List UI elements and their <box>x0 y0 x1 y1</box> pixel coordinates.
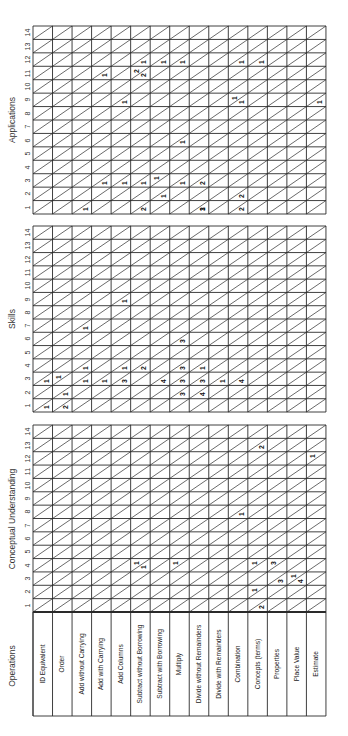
cell-number-tick: 1 <box>23 200 32 214</box>
tally-mark: 1 <box>250 559 258 568</box>
cell-number-tick: 8 <box>23 305 32 319</box>
section-title-skills: Skills <box>6 239 18 399</box>
tally-mark: 1 <box>120 178 128 187</box>
operation-label: Add Columns <box>116 614 126 714</box>
tally-mark: 1 <box>81 323 89 332</box>
tally-mark: 3 <box>199 205 207 214</box>
cell-number-tick: 6 <box>23 332 32 346</box>
tally-mark: 2 <box>257 603 265 612</box>
tally-mark: 3 <box>270 559 278 568</box>
tally-mark: 4 <box>238 376 246 385</box>
tally-mark: 1 <box>172 559 180 568</box>
tally-mark: 3 <box>179 390 187 399</box>
cell-number-tick: 4 <box>23 558 32 572</box>
cell-number-tick: 5 <box>23 147 32 161</box>
operations-header: Operations <box>6 626 18 706</box>
tally-mark: 2 <box>140 71 148 80</box>
tally-mark: 1 <box>218 376 226 385</box>
cell-number-tick: 6 <box>23 133 32 147</box>
tally-mark: 1 <box>159 57 167 66</box>
cell-number-tick: 12 <box>23 53 32 67</box>
cell-number-tick: 14 <box>23 226 32 240</box>
tally-mark: 3 <box>120 376 128 385</box>
operation-label: Multiply <box>174 614 184 714</box>
cell-number-tick: 8 <box>23 106 32 120</box>
operation-label: Estimate <box>311 614 321 714</box>
cell-number-tick: 5 <box>23 345 32 359</box>
tally-mark: 1 <box>152 174 160 183</box>
section-title-applications: Applications <box>6 40 18 200</box>
cell-number-tick: 13 <box>23 438 32 452</box>
section-title-conceptual: Conceptual Understanding <box>6 439 18 599</box>
tally-mark: 1 <box>81 205 89 214</box>
operation-label: Place Value <box>292 614 302 714</box>
cell-number-tick: 10 <box>23 79 32 93</box>
tally-mark: 4 <box>296 576 304 585</box>
tally-mark: 1 <box>179 138 187 147</box>
tally-mark: 1 <box>62 390 70 399</box>
cell-number-tick: 6 <box>23 532 32 546</box>
cell-number-tick: 7 <box>23 319 32 333</box>
cell-number-tick: 9 <box>23 292 32 306</box>
tally-mark: 1 <box>101 376 109 385</box>
cell-number-tick: 4 <box>23 160 32 174</box>
operation-label: Subtract without Borrowing <box>135 614 145 714</box>
cell-number-tick: 12 <box>23 252 32 266</box>
operation-label: Subtract with Borrowing <box>155 614 165 714</box>
cell-number-tick: 3 <box>23 572 32 586</box>
cell-number-tick: 3 <box>23 372 32 386</box>
cell-number-tick: 13 <box>23 39 32 53</box>
tally-mark: 1 <box>238 98 246 107</box>
tally-mark: 2 <box>140 363 148 372</box>
tally-mark: 1 <box>238 509 246 518</box>
operation-label: Divide without Remainders <box>194 614 204 714</box>
cell-number-tick: 1 <box>23 398 32 412</box>
operation-label: Order <box>57 614 67 714</box>
tally-mark: 2 <box>199 178 207 187</box>
cell-number-tick: 12 <box>23 451 32 465</box>
tally-mark: 1 <box>179 178 187 187</box>
tally-mark: 3 <box>179 337 187 346</box>
tally-mark: 1 <box>140 178 148 187</box>
cell-number-tick: 10 <box>23 279 32 293</box>
operation-label: Properties <box>272 614 282 714</box>
tally-mark: 1 <box>42 403 50 412</box>
tally-mark: 1 <box>257 57 265 66</box>
tally-mark: 1 <box>140 57 148 66</box>
cell-number-tick: 11 <box>23 266 32 280</box>
tally-mark: 1 <box>199 363 207 372</box>
tally-mark: 1 <box>250 585 258 594</box>
operation-label: Add without Carrying <box>77 614 87 714</box>
tally-mark: 1 <box>101 71 109 80</box>
tally-mark: 4 <box>199 390 207 399</box>
tally-mark: 3 <box>199 376 207 385</box>
operation-label: ID Equivalent <box>38 614 48 714</box>
tally-mark: 1 <box>55 372 63 381</box>
tally-mark: 1 <box>81 363 89 372</box>
tally-mark: 1 <box>101 178 109 187</box>
cell-number-tick: 2 <box>23 385 32 399</box>
cell-number-tick: 14 <box>23 26 32 40</box>
cell-number-tick: 11 <box>23 66 32 80</box>
cell-number-tick: 5 <box>23 545 32 559</box>
tally-mark: 4 <box>159 376 167 385</box>
tally-mark: 1 <box>120 297 128 306</box>
tally-mark: 3 <box>179 376 187 385</box>
tally-mark: 2 <box>238 205 246 214</box>
tally-mark: 2 <box>257 443 265 452</box>
tally-mark: 1 <box>179 57 187 66</box>
tally-mark: 3 <box>277 576 285 585</box>
cell-number-tick: 9 <box>23 93 32 107</box>
tally-mark: 3 <box>179 363 187 372</box>
tally-mark: 1 <box>81 376 89 385</box>
cell-number-tick: 3 <box>23 173 32 187</box>
cell-number-tick: 7 <box>23 120 32 134</box>
cell-number-tick: 2 <box>23 585 32 599</box>
cell-number-tick: 7 <box>23 518 32 532</box>
cell-number-tick: 4 <box>23 359 32 373</box>
tally-mark: 1 <box>316 98 324 107</box>
tally-mark: 2 <box>62 403 70 412</box>
cell-number-tick: 10 <box>23 478 32 492</box>
tally-mark: 1 <box>309 452 317 461</box>
tally-mark: 1 <box>140 563 148 572</box>
